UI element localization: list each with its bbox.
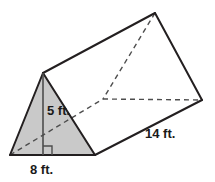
triangular-prism-drawing xyxy=(0,0,215,182)
base-label: 8 ft. xyxy=(30,163,53,176)
depth-label: 14 ft. xyxy=(145,127,175,140)
height-label: 5 ft. xyxy=(47,104,70,117)
geometry-figure: 5 ft. 8 ft. 14 ft. xyxy=(0,0,215,182)
